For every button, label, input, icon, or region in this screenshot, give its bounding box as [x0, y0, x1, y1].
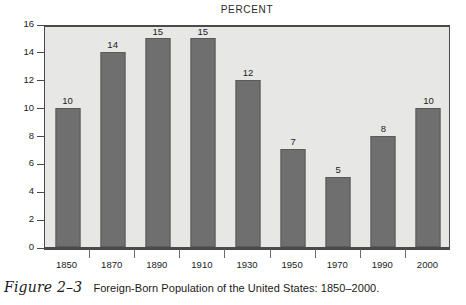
- x-axis-tick-label: 1950: [270, 259, 315, 270]
- bar-value-label: 10: [423, 95, 434, 106]
- bar-value-label: 12: [243, 67, 254, 78]
- y-axis-tick-mark: [37, 192, 44, 193]
- y-axis-tick-label: 8: [29, 130, 34, 141]
- bar[interactable]: [100, 52, 125, 247]
- bar-value-label: 5: [336, 164, 341, 175]
- bar[interactable]: [145, 38, 170, 247]
- figure-caption: Figure 2–3 Foreign-Born Population of th…: [4, 279, 462, 301]
- bar-group[interactable]: 14: [90, 27, 135, 247]
- chart-title: PERCENT: [44, 4, 450, 15]
- bar[interactable]: [326, 177, 351, 247]
- y-axis-tick-label: 14: [23, 46, 34, 57]
- y-axis-tick-mark: [37, 52, 44, 53]
- x-axis-tick-label: 1990: [360, 259, 405, 270]
- bar-group[interactable]: 12: [225, 27, 270, 247]
- y-axis-tick-label: 0: [29, 241, 34, 252]
- bar[interactable]: [371, 136, 396, 248]
- bar[interactable]: [416, 108, 441, 247]
- x-axis-tick-label: 1890: [134, 259, 179, 270]
- y-axis-tick-mark: [37, 164, 44, 165]
- figure-container: PERCENT 0246810121416 101415151275810 18…: [0, 0, 466, 305]
- x-axis-line: [44, 248, 450, 250]
- bar-value-label: 15: [152, 26, 163, 37]
- x-axis-tick-label: 1930: [224, 259, 269, 270]
- y-axis-tick-label: 4: [29, 185, 34, 196]
- bar[interactable]: [55, 108, 80, 247]
- y-axis-tick-mark: [37, 108, 44, 109]
- x-axis-separator: [179, 249, 180, 258]
- bar-group[interactable]: 10: [45, 27, 90, 247]
- bar-value-label: 8: [381, 123, 386, 134]
- x-axis-separator: [89, 249, 90, 258]
- y-axis-tick-label: 2: [29, 213, 34, 224]
- bar[interactable]: [281, 149, 306, 247]
- bar-group[interactable]: 5: [316, 27, 361, 247]
- plot-area: 101415151275810: [44, 25, 450, 248]
- y-axis-tick-mark: [37, 136, 44, 137]
- x-axis: 185018701890191019301950197019902000: [44, 248, 450, 278]
- x-axis-tick-label: 1970: [315, 259, 360, 270]
- x-axis-separator: [270, 249, 271, 258]
- bar-group[interactable]: 7: [271, 27, 316, 247]
- x-axis-separator: [315, 249, 316, 258]
- caption-text: Foreign-Born Population of the United St…: [93, 282, 379, 294]
- bar-group[interactable]: 15: [135, 27, 180, 247]
- x-axis-tick-label: 1910: [179, 259, 224, 270]
- y-axis-tick-label: 12: [23, 74, 34, 85]
- bar-group[interactable]: 8: [361, 27, 406, 247]
- y-axis-tick-label: 10: [23, 102, 34, 113]
- y-axis-tick-label: 16: [23, 18, 34, 29]
- y-axis-tick-mark: [37, 80, 44, 81]
- x-axis-separator: [134, 249, 135, 258]
- bar-group[interactable]: 15: [180, 27, 225, 247]
- x-axis-separator: [405, 249, 406, 258]
- y-axis-tick-mark: [37, 248, 44, 249]
- bar[interactable]: [235, 80, 260, 247]
- bar-value-label: 7: [290, 136, 295, 147]
- x-axis-separator: [360, 249, 361, 258]
- bar-group[interactable]: 10: [406, 27, 451, 247]
- bars-layer: 101415151275810: [45, 27, 449, 247]
- x-axis-tick-label: 1850: [44, 259, 89, 270]
- y-axis-tick-mark: [37, 220, 44, 221]
- caption-figure-number: Figure 2–3: [4, 279, 82, 295]
- y-axis-tick-label: 6: [29, 157, 34, 168]
- bar[interactable]: [190, 38, 215, 247]
- x-axis-separator: [224, 249, 225, 258]
- bar-value-label: 10: [62, 95, 73, 106]
- x-axis-tick-label: 1870: [89, 259, 134, 270]
- bar-value-label: 14: [107, 39, 118, 50]
- y-axis: 0246810121416: [0, 0, 44, 253]
- bar-value-label: 15: [198, 26, 209, 37]
- x-axis-tick-label: 2000: [405, 259, 450, 270]
- y-axis-tick-mark: [37, 25, 44, 26]
